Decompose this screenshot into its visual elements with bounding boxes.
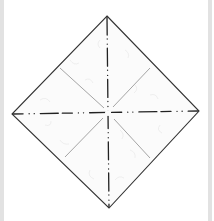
origami-diagram [0,0,214,221]
center-point [105,110,111,116]
